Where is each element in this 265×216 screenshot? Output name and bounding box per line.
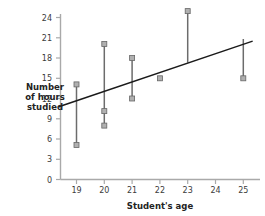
data-point-20-20 xyxy=(102,42,107,47)
y-tick-label-9: 9 xyxy=(47,115,52,124)
x-tick-label-25: 25 xyxy=(238,186,248,195)
y-axis-title-line-3: studied xyxy=(27,102,63,112)
scatterplot-with-regression-line: 0 3 6 9 12 15 18 21 24 19 20 21 22 23 xyxy=(0,0,265,216)
y-tick-label-24: 24 xyxy=(42,14,52,23)
y-tick-label-6: 6 xyxy=(47,135,52,144)
x-tick-label-21: 21 xyxy=(127,186,137,195)
y-axis-title: Number of hours studied xyxy=(25,82,65,112)
y-tick-label-18: 18 xyxy=(42,54,52,63)
x-tick-label-22: 22 xyxy=(155,186,165,195)
x-axis-title: Student's age xyxy=(127,201,194,211)
data-point-21-18 xyxy=(130,56,135,61)
data-point-19-14 xyxy=(74,82,79,87)
data-point-20-10 xyxy=(102,109,107,114)
data-point-23-25 xyxy=(185,9,190,14)
data-point-25-15 xyxy=(241,76,246,81)
data-point-21-12 xyxy=(130,96,135,101)
x-tick-label-23: 23 xyxy=(183,186,193,195)
y-tick-label-0: 0 xyxy=(47,176,52,185)
data-point-19-5 xyxy=(74,143,79,148)
y-axis-title-line-2: of hours xyxy=(25,92,65,102)
y-tick-label-21: 21 xyxy=(42,34,52,43)
data-point-22-15 xyxy=(157,76,162,81)
x-tick-label-20: 20 xyxy=(99,186,109,195)
chart-page: 0 3 6 9 12 15 18 21 24 19 20 21 22 23 xyxy=(0,0,265,216)
y-axis-title-line-1: Number xyxy=(26,82,65,92)
x-tick-label-19: 19 xyxy=(71,186,81,195)
data-point-20-8 xyxy=(102,123,107,128)
x-tick-label-24: 24 xyxy=(210,186,220,195)
y-tick-label-3: 3 xyxy=(47,155,52,164)
